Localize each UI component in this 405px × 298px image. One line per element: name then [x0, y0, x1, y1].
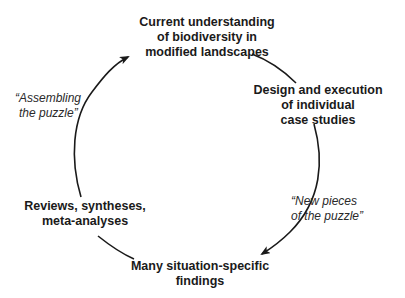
- node-current-understanding: Current understanding of biodiversity in…: [139, 15, 274, 60]
- edge-casestudies-to-findings: [262, 124, 319, 254]
- node-line: Many situation-specific: [131, 259, 269, 274]
- node-line: Reviews, syntheses,: [24, 199, 146, 214]
- node-findings: Many situation-specific findings: [131, 259, 269, 289]
- node-line: findings: [131, 274, 269, 289]
- node-line: Design and execution: [253, 83, 382, 98]
- node-line: of biodiversity in: [139, 30, 274, 45]
- cycle-diagram: Current understanding of biodiversity in…: [0, 0, 405, 298]
- node-line: meta-analyses: [24, 214, 146, 229]
- node-line: of individual: [253, 98, 382, 113]
- node-line: case studies: [253, 113, 382, 128]
- node-line: modified landscapes: [139, 45, 274, 60]
- node-reviews: Reviews, syntheses, meta-analyses: [24, 199, 146, 229]
- edge-findings-to-reviews: [98, 236, 134, 259]
- edge-reviews-to-understanding: [74, 57, 128, 197]
- label-line: “New pieces: [291, 194, 363, 209]
- edge-label-new-pieces: “New pieces of the puzzle”: [291, 194, 363, 224]
- label-line: the puzzle”: [15, 106, 81, 121]
- edge-label-assembling: “Assembling the puzzle”: [15, 91, 81, 121]
- node-case-studies: Design and execution of individual case …: [253, 83, 382, 128]
- node-line: Current understanding: [139, 15, 274, 30]
- label-line: “Assembling: [15, 91, 81, 106]
- label-line: of the puzzle”: [291, 209, 363, 224]
